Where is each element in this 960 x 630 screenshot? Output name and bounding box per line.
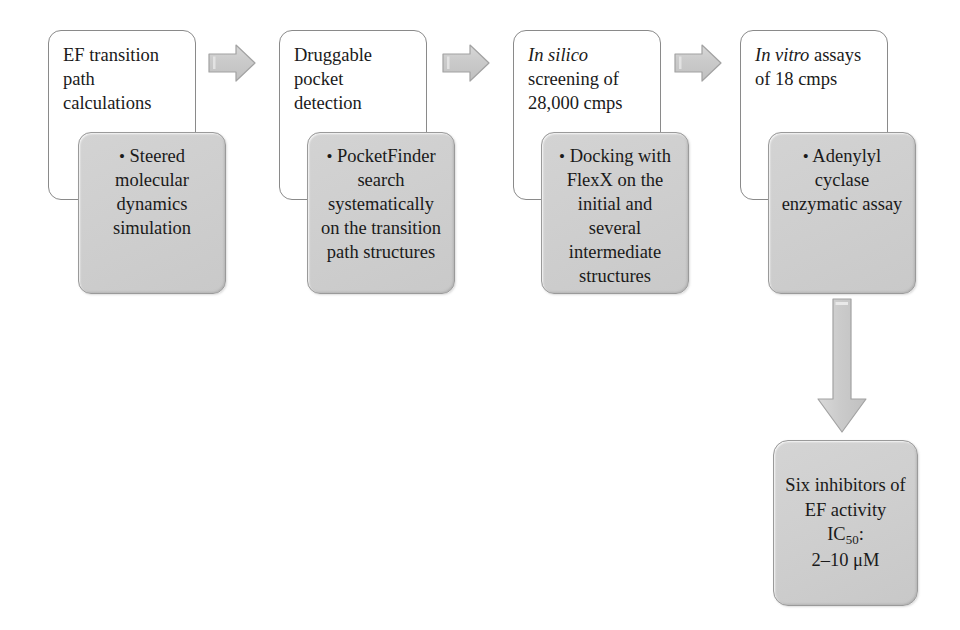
stage-2-header-line3: detection <box>294 91 416 115</box>
result-line-1: Six inhibitors of <box>785 473 905 497</box>
right-arrow-icon <box>440 42 492 84</box>
right-arrow-icon <box>672 42 724 84</box>
stage-2-bullet-icon: • <box>326 147 332 166</box>
stage-3-detail-text: Docking with FlexX on the initial and se… <box>567 146 671 286</box>
stage-4-bullet-icon: • <box>803 147 809 166</box>
stage-2-detail-text: PocketFinder search systematically on th… <box>321 146 441 262</box>
stage-4-header-italic: In vitro <box>755 45 809 65</box>
stage-4-header-line2: of 18 cmps <box>755 67 877 91</box>
stage-2-detail-card[interactable]: • PocketFinder search systematically on … <box>307 132 455 294</box>
result-box[interactable]: Six inhibitors of EF activity IC50: 2–10… <box>773 440 918 606</box>
stage-4-detail-text: Adenylyl cyclase enzymatic assay <box>782 146 903 214</box>
arrow-stage4-to-result <box>800 296 884 436</box>
result-ic50-subscript: 50 <box>846 532 859 547</box>
stage-3-header-line2: 28,000 cmps <box>528 91 650 115</box>
stage-1-bullet-icon: • <box>119 147 125 166</box>
result-ic50-suffix: : <box>859 524 864 544</box>
stage-1-header-line1: EF transition <box>63 43 185 67</box>
arrow-stage1-to-stage2 <box>206 42 258 84</box>
result-line-4: 2–10 μM <box>785 548 905 572</box>
stage-2-header-line2: pocket <box>294 67 416 91</box>
right-arrow-icon <box>206 42 258 84</box>
stage-4-header-line1: assays <box>814 45 861 65</box>
stage-1-header-line2: path <box>63 67 185 91</box>
stage-3-bullet-icon: • <box>559 147 565 166</box>
result-ic50-label: IC <box>827 524 846 544</box>
result-text-block: Six inhibitors of EF activity IC50: 2–10… <box>785 473 905 572</box>
flowchart-canvas: EF transition path calculations • Steere… <box>0 0 960 630</box>
result-line-2: EF activity <box>785 498 905 522</box>
stage-1-detail-card[interactable]: • Steered molecular dynamics simulation <box>78 132 226 294</box>
stage-4-detail-card[interactable]: • Adenylyl cyclase enzymatic assay <box>768 132 916 294</box>
arrow-stage3-to-stage4 <box>672 42 724 84</box>
stage-1-header-line3: calculations <box>63 91 185 115</box>
stage-3-detail-card[interactable]: • Docking with FlexX on the initial and … <box>541 132 689 294</box>
result-line-3: IC50: <box>785 522 905 548</box>
arrow-stage2-to-stage3 <box>440 42 492 84</box>
stage-3-header-line1: screening of <box>528 67 650 91</box>
stage-1-detail-text: Steered molecular dynamics simulation <box>113 146 191 238</box>
down-arrow-icon <box>800 296 884 436</box>
stage-3-header-italic: In silico <box>528 45 588 65</box>
stage-2-header-line1: Druggable <box>294 43 416 67</box>
